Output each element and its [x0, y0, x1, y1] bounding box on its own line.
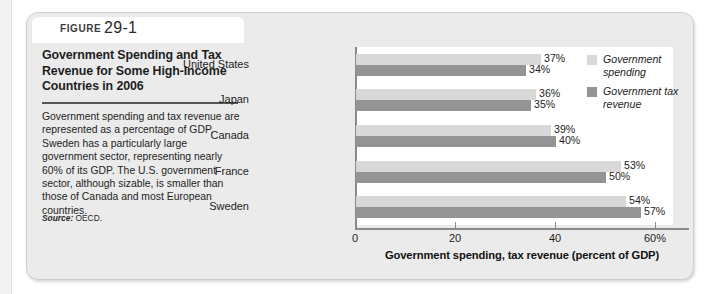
bar [356, 161, 621, 172]
bar [356, 207, 641, 218]
source-label: Source: [42, 213, 73, 223]
bar [356, 89, 536, 100]
category-label: Sweden [209, 200, 249, 212]
bar [356, 125, 551, 136]
x-tick-label: 40 [549, 232, 561, 244]
legend-item-tax-revenue: Government tax revenue [587, 85, 691, 110]
x-tick [655, 222, 656, 229]
bar [356, 100, 531, 111]
x-tick-label: 0 [352, 232, 358, 244]
chart-legend: Government spending Government tax reven… [587, 53, 691, 117]
x-axis-line [355, 228, 689, 230]
legend-item-spending: Government spending [587, 53, 691, 78]
category-label: United States [183, 58, 249, 70]
page-gutter [0, 0, 12, 294]
caption-divider [42, 102, 238, 104]
bar [356, 172, 606, 183]
figure-screenshot: FIGURE 29-1 Government Spending and Tax … [0, 0, 718, 294]
source-value: OECD. [76, 213, 103, 223]
bar [356, 196, 626, 207]
bar-value-label: 40% [559, 134, 580, 146]
category-label: Japan [219, 93, 249, 105]
legend-swatch-spending [587, 55, 597, 65]
bar-value-label: 34% [529, 63, 550, 75]
legend-label-spending: Government spending [603, 53, 691, 78]
bar-value-label: 57% [644, 205, 665, 217]
figure-title: Government Spending and Tax Revenue for … [42, 48, 238, 95]
category-label: France [215, 165, 249, 177]
bar-value-label: 50% [609, 170, 630, 182]
bar [356, 54, 541, 65]
bar [356, 136, 556, 147]
figure-number: 29-1 [104, 19, 137, 37]
bar [356, 65, 526, 76]
legend-label-tax-revenue: Government tax revenue [603, 85, 691, 110]
x-tick-label: 60% [644, 232, 666, 244]
figure-tag-label: FIGURE [60, 23, 101, 34]
legend-swatch-tax-revenue [587, 87, 597, 97]
x-axis-title: Government spending, tax revenue (percen… [355, 249, 689, 261]
bar-chart: 0204060% United StatesJapanCanadaFranceS… [251, 17, 689, 275]
x-tick-label: 20 [449, 232, 461, 244]
x-tick [455, 222, 456, 229]
bar-value-label: 35% [534, 98, 555, 110]
figure-container: FIGURE 29-1 Government Spending and Tax … [26, 12, 694, 280]
x-tick [555, 222, 556, 229]
category-label: Canada [210, 129, 249, 141]
figure-source: Source: OECD. [42, 213, 102, 223]
